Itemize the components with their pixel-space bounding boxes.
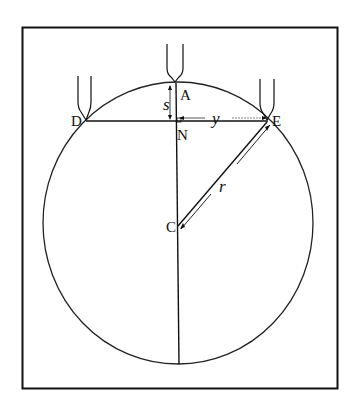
r-arrow-c-icon <box>180 223 185 229</box>
label-d: D <box>71 113 82 129</box>
label-e: E <box>272 113 281 129</box>
r-dim-line-upper <box>237 125 270 164</box>
r-dim-line-lower <box>181 194 211 229</box>
radius-ce <box>178 122 267 226</box>
sagitta-diagram: A D E N C s y r <box>0 0 351 411</box>
label-n: N <box>177 127 188 143</box>
label-r: r <box>219 177 226 196</box>
s-arrow-bottom-icon <box>168 115 172 120</box>
tuning-fork-a-icon <box>167 44 183 82</box>
label-a: A <box>180 87 191 103</box>
label-c: C <box>166 219 176 235</box>
label-s: s <box>163 95 170 114</box>
vertical-line-a-bottom <box>176 83 179 364</box>
s-arrow-top-icon <box>168 85 172 90</box>
label-y: y <box>210 109 220 128</box>
